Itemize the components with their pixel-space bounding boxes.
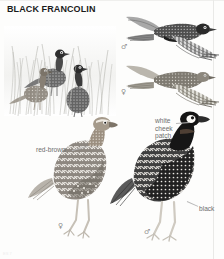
annotation-black: black <box>199 205 214 213</box>
illustration-plate: BLACK FRANCOLIN <box>0 0 224 259</box>
male-flight-sex-symbol: ♂ <box>121 43 127 51</box>
standing-female <box>26 108 120 242</box>
male-in-flight <box>120 10 222 64</box>
annotation-red-brown: red-brown <box>36 146 66 154</box>
female-in-flight <box>120 60 222 110</box>
annotation-white-cheek-patch: white cheek patch <box>155 117 173 140</box>
page-title: BLACK FRANCOLIN <box>7 4 96 14</box>
habitat-scene-three-birds-in-grass <box>4 18 116 118</box>
female-flight-sex-symbol: ♀ <box>121 88 126 96</box>
standing-female-sex-symbol: ♀ <box>58 222 63 230</box>
standing-male-sex-symbol: ♂ <box>144 228 150 236</box>
plate-credit: ES 7 <box>3 251 12 256</box>
top-margin-rule <box>0 0 224 1</box>
